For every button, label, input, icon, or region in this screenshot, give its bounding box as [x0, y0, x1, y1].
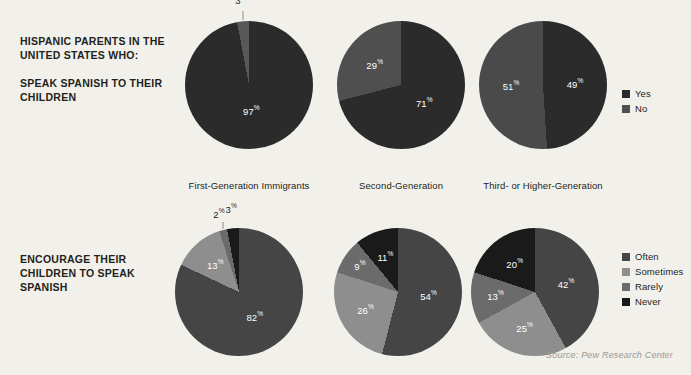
pie-chart-encourage-third-generation: 42%25%13%20% — [471, 228, 599, 356]
slice-value-never: 3% — [226, 204, 237, 215]
pie-chart-speak-first-generation: 97%3% — [185, 21, 313, 149]
pie-chart-speak-third-generation: 49%51% — [479, 21, 607, 149]
category-label-first-generation: First-Generation Immigrants — [189, 180, 310, 191]
category-label-second-generation: Second-Generation — [359, 180, 443, 191]
legend-label-never: Never — [635, 296, 661, 307]
slice-value-never: 20% — [506, 259, 523, 270]
legend-encourage-spanish: Often Sometimes Rarely Never — [622, 251, 683, 311]
legend-swatch-no — [622, 105, 630, 113]
legend-label-no: No — [635, 103, 647, 114]
row-2-heading-lead: ENCOURAGE THEIR CHILDREN TO SPEAK SPANIS… — [20, 253, 135, 293]
slice-leader-line — [222, 222, 223, 229]
slice-value-often: 42% — [558, 279, 575, 290]
infographic-canvas: HISPANIC PARENTS IN THE UNITED STATES WH… — [0, 0, 691, 375]
slice-leader-line — [242, 11, 243, 20]
legend-label-yes: Yes — [635, 88, 651, 99]
legend-swatch-never — [622, 298, 630, 306]
slice-value-sometimes: 25% — [516, 322, 533, 333]
source-attribution: Source: Pew Research Center — [546, 350, 673, 360]
category-label-third-generation: Third- or Higher-Generation — [483, 180, 602, 191]
legend-item-rarely[interactable]: Rarely — [622, 281, 683, 292]
slice-value-often: 82% — [246, 311, 263, 322]
pie-chart-speak-second-generation: 71%29% — [337, 21, 465, 149]
legend-swatch-rarely — [622, 283, 630, 291]
slice-value-never: 11% — [377, 252, 393, 263]
legend-speak-spanish: Yes No — [622, 88, 651, 118]
row-2-heading: ENCOURAGE THEIR CHILDREN TO SPEAK SPANIS… — [20, 252, 180, 294]
legend-swatch-yes — [622, 90, 630, 98]
legend-swatch-sometimes — [622, 268, 630, 276]
slice-value-often: 54% — [420, 290, 437, 301]
slice-value-no: 3% — [235, 0, 246, 5]
row-1-heading-sub: SPEAK SPANISH TO THEIR CHILDREN — [20, 76, 180, 104]
slice-value-no: 29% — [366, 59, 383, 70]
slice-value-yes: 97% — [243, 105, 260, 116]
slice-value-rarely: 9% — [354, 261, 365, 272]
slice-value-sometimes: 26% — [357, 304, 374, 315]
row-1-heading: HISPANIC PARENTS IN THE UNITED STATES WH… — [20, 34, 180, 104]
legend-swatch-often — [622, 253, 630, 261]
legend-item-yes[interactable]: Yes — [622, 88, 651, 99]
pie-chart-encourage-first-generation: 82%13%2%3% — [175, 228, 303, 356]
slice-value-rarely: 2% — [213, 208, 224, 219]
legend-item-never[interactable]: Never — [622, 296, 683, 307]
slice-value-yes: 71% — [416, 98, 433, 109]
legend-label-often: Often — [635, 251, 659, 262]
slice-value-rarely: 13% — [487, 290, 504, 301]
legend-label-rarely: Rarely — [635, 281, 663, 292]
legend-item-often[interactable]: Often — [622, 251, 683, 262]
legend-item-no[interactable]: No — [622, 103, 651, 114]
legend-label-sometimes: Sometimes — [635, 266, 683, 277]
slice-value-yes: 49% — [567, 79, 584, 90]
legend-item-sometimes[interactable]: Sometimes — [622, 266, 683, 277]
row-1-heading-lead: HISPANIC PARENTS IN THE UNITED STATES WH… — [20, 34, 180, 62]
slice-value-sometimes: 13% — [207, 260, 224, 271]
pie-chart-encourage-second-generation: 54%26%9%11% — [334, 228, 462, 356]
slice-value-no: 51% — [503, 81, 520, 92]
